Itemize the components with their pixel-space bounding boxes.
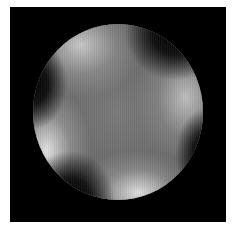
intensity-disc <box>33 24 203 200</box>
image-frame <box>10 7 226 222</box>
disc-scanline-texture <box>33 24 203 200</box>
